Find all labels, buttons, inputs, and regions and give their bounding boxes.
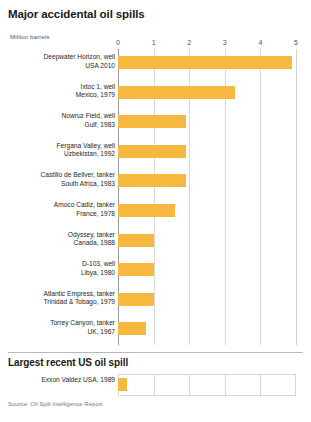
row-sublabel: South Africa, 1983 [3,180,115,189]
bar-atlantic-empress-tanker [118,293,154,306]
bar-castillo-de-bellver-tanker [118,174,186,187]
list-item-label: Ixtoc 1, wellMexico, 1979 [3,83,115,100]
table-row: Ixtoc 1, wellMexico, 1979 [0,83,311,109]
list-item-label: Atlantic Empress, tankerTrinidad & Tobag… [3,290,115,307]
secondary-plot-area: Exxon Valdez USA, 1989 [0,374,311,396]
row-sublabel: USA 2010 [3,62,115,71]
row-name: D-103, well [82,260,115,267]
row-sublabel: Libya, 1980 [3,269,115,278]
bar-nowruz-field-well [118,115,186,128]
bar-fergana-valley-well [118,145,186,158]
row-name: Atlantic Empress, tanker [44,290,115,297]
table-row: D-103, wellLibya, 1980 [0,260,311,286]
page-title: Major accidental oil spills [8,8,145,20]
secondary-chart-title: Largest recent US oil spill [8,357,128,368]
x-axis-tick-row: 012345 [0,39,311,49]
secondary-gridline-3 [225,375,226,397]
bar-torrey-canyon-tanker [118,322,146,335]
x-tick-label-1: 1 [152,39,156,46]
x-tick-label-5: 5 [294,39,298,46]
list-item-label: Castillo de Bellver, tankerSouth Africa,… [3,171,115,188]
row-sublabel: Canada, 1988 [3,239,115,248]
secondary-plot-frame [118,374,296,396]
secondary-gridline-4 [260,375,261,397]
x-tick-label-0: 0 [116,39,120,46]
table-row: Deepwater Horizon, wellUSA 2010 [0,53,311,79]
row-sublabel: Gulf, 1983 [3,121,115,130]
table-row: Odyssey, tankerCanada, 1988 [0,231,311,257]
row-name: Amoco Cadiz, tanker [54,201,115,208]
row-sublabel: UK, 1967 [3,328,115,337]
row-sublabel: Trinidad & Tobago, 1979 [3,298,115,307]
list-item-label: Amoco Cadiz, tankerFrance, 1978 [3,201,115,218]
table-row: Atlantic Empress, tankerTrinidad & Tobag… [0,290,311,316]
row-sublabel: Mexico, 1979 [3,91,115,100]
oil-spills-chart-figure: Major accidental oil spills Million barr… [0,0,311,422]
list-item-label: Odyssey, tankerCanada, 1988 [3,231,115,248]
row-name: Nowruz Field, well [62,112,116,119]
table-row: Fergana Valley, wellUzbekistan, 1992 [0,142,311,168]
bar-ixtoc-1-well [118,86,235,99]
bar-amoco-cadiz-tanker [118,204,175,217]
bar-exxon-valdez [118,378,127,391]
row-name: Castillo de Bellver, tanker [41,171,115,178]
row-sublabel: USA, 1989 [83,376,115,383]
table-row: Castillo de Bellver, tankerSouth Africa,… [0,171,311,197]
secondary-gridline-2 [189,375,190,397]
bar-rows: Deepwater Horizon, wellUSA 2010Ixtoc 1, … [0,49,311,345]
row-name: Odyssey, tanker [68,231,115,238]
bar-d-103-well [118,263,154,276]
table-row: Torrey Canyon, tankerUK, 1967 [0,319,311,345]
row-name: Torrey Canyon, tanker [50,319,115,326]
row-name: Ixtoc 1, well [81,83,115,90]
row-name: Fergana Valley, well [57,142,115,149]
table-row: Amoco Cadiz, tankerFrance, 1978 [0,201,311,227]
x-tick-label-3: 3 [223,39,227,46]
list-item-label: Fergana Valley, wellUzbekistan, 1992 [3,142,115,159]
row-sublabel: Uzbekistan, 1992 [3,150,115,159]
bar-odyssey-tanker [118,234,154,247]
list-item-label: Nowruz Field, wellGulf, 1983 [3,112,115,129]
list-item-label: Deepwater Horizon, wellUSA 2010 [3,53,115,70]
bar-deepwater-horizon-well [118,56,292,69]
row-sublabel: France, 1978 [3,210,115,219]
x-tick-label-2: 2 [187,39,191,46]
row-name: Deepwater Horizon, well [44,53,115,60]
x-tick-label-4: 4 [258,39,262,46]
main-plot-area: 012345 Deepwater Horizon, wellUSA 2010Ix… [0,39,311,345]
list-item-label: Exxon Valdez USA, 1989 [3,376,115,385]
secondary-gridline-1 [154,375,155,397]
table-row: Nowruz Field, wellGulf, 1983 [0,112,311,138]
list-item-label: D-103, wellLibya, 1980 [3,260,115,277]
source-note: Source: Oil Spill Intelligence Report [8,401,102,407]
list-item-label: Torrey Canyon, tankerUK, 1967 [3,319,115,336]
row-name: Exxon Valdez [41,376,81,383]
section-divider [8,352,303,353]
